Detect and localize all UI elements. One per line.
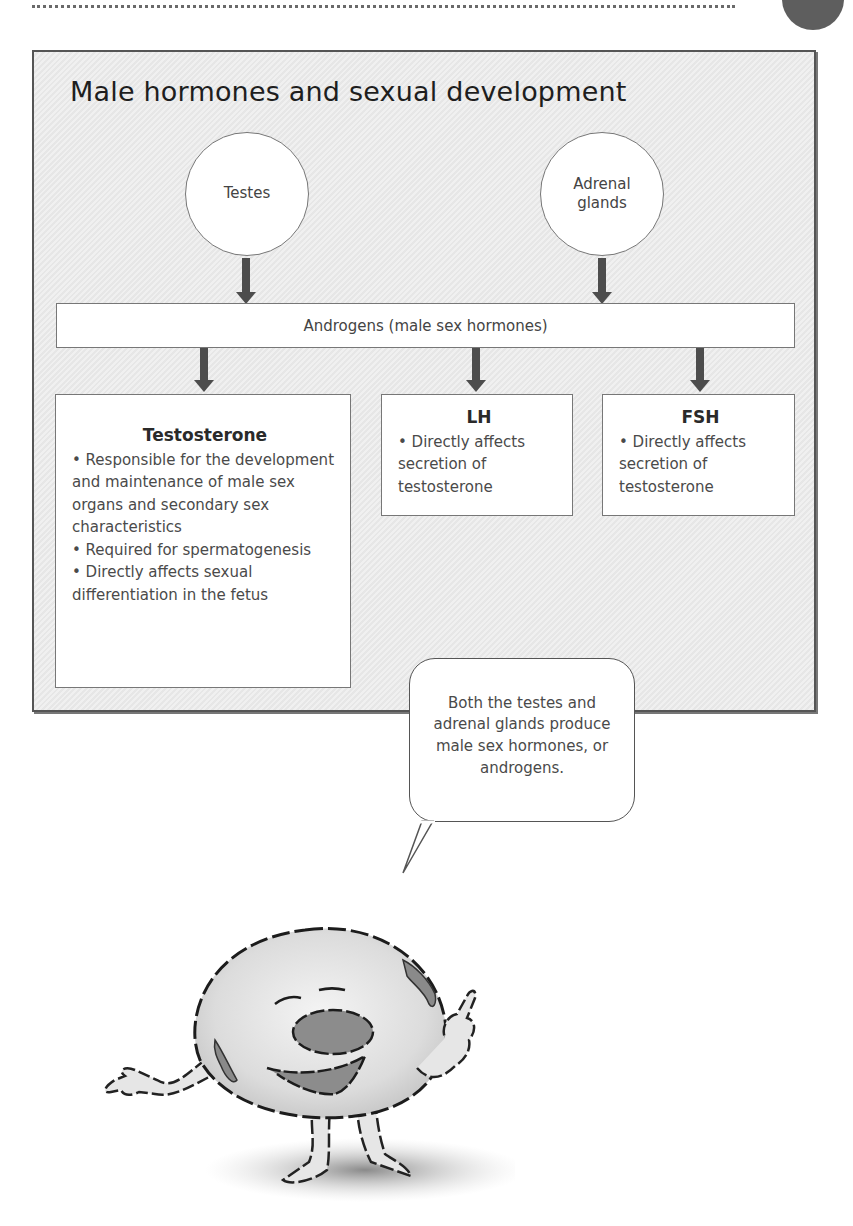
diagram-panel: Male hormones and sexual development Tes… [32, 50, 816, 712]
hormone-box-lh: LH • Directly affects secretion of testo… [381, 394, 573, 516]
speech-bubble-tail [395, 818, 445, 878]
arrow-down-icon [598, 258, 606, 294]
hormone-box-testosterone: Testosterone • Responsible for the devel… [55, 394, 351, 688]
speech-bubble-text: Both the testes and adrenal glands produ… [424, 693, 620, 780]
arrow-down-icon [242, 258, 250, 294]
hormone-box-fsh: FSH • Directly affects secretion of test… [602, 394, 795, 516]
source-adrenal-label-line2: glands [577, 194, 627, 212]
hormone-name: LH [398, 405, 560, 431]
arrow-down-icon [200, 348, 208, 382]
header-dotted-rule [32, 5, 735, 8]
hormone-bullet: • Directly affects secretion of testoste… [398, 431, 560, 499]
hormone-bullet: • Responsible for the development and ma… [72, 449, 338, 539]
source-adrenal-glands: Adrenal glands [540, 132, 664, 256]
arrow-down-icon [696, 348, 704, 382]
androgens-bar: Androgens (male sex hormones) [56, 303, 795, 348]
speech-bubble: Both the testes and adrenal glands produ… [409, 658, 635, 822]
hormone-name: Testosterone [72, 423, 338, 449]
page-tab-marker [782, 0, 844, 30]
hormone-name: FSH [619, 405, 782, 431]
hormone-bullet: • Required for spermatogenesis [72, 539, 338, 562]
diagram-title: Male hormones and sexual development [70, 76, 627, 107]
androgens-bar-label: Androgens (male sex hormones) [303, 317, 547, 335]
arrow-down-icon [472, 348, 480, 382]
hormone-bullet: • Directly affects secretion of testoste… [619, 431, 782, 499]
source-adrenal-label-line1: Adrenal [573, 175, 630, 193]
source-testes-label: Testes [224, 184, 271, 204]
source-testes: Testes [185, 132, 309, 256]
mascot-cell-icon [95, 880, 515, 1226]
hormone-bullet: • Directly affects sexual differentiatio… [72, 561, 338, 606]
